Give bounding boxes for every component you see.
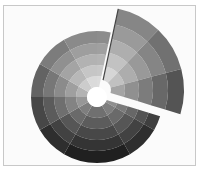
wedge-segment xyxy=(151,73,168,110)
wedge-segment xyxy=(124,80,139,101)
disc-segment xyxy=(97,54,106,66)
wedge-segment xyxy=(137,77,153,105)
sunburst-graphic xyxy=(0,0,201,172)
center-hole xyxy=(87,87,107,107)
disc-segment xyxy=(97,31,111,44)
disc-segment xyxy=(97,76,101,87)
disc-segment xyxy=(97,65,104,76)
disc-segment xyxy=(97,43,108,55)
